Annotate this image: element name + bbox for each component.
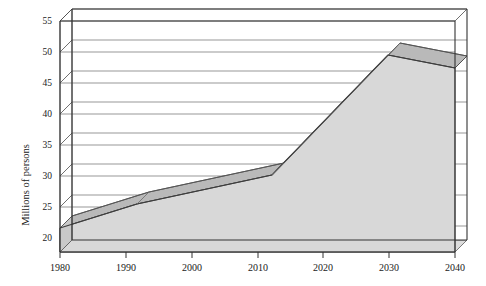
xtick-label: 1980: [50, 262, 70, 273]
ytick-label: 35: [43, 140, 53, 150]
ytick-label: 30: [43, 171, 53, 181]
yaxis-tick-labels: 55 50 45 40 35 30 25 20: [43, 16, 53, 243]
xtick-label: 2040: [445, 262, 465, 273]
xtick-label: 2030: [379, 262, 399, 273]
chart-canvas: 55 50 45 40 35 30 25 20 1980 1990 2000 2…: [0, 0, 486, 286]
yaxis-title: Millions of persons: [20, 144, 31, 226]
ytick-label: 20: [43, 233, 53, 243]
ytick-label: 55: [43, 16, 53, 26]
ytick-label: 50: [43, 47, 53, 57]
xtick-label: 2020: [313, 262, 333, 273]
xaxis-ticks: [60, 252, 455, 258]
xtick-label: 2000: [182, 262, 202, 273]
xaxis-tick-labels: 1980 1990 2000 2010 2020 2030 2040: [50, 262, 465, 273]
xtick-label: 2010: [248, 262, 268, 273]
chart-3d-area: 55 50 45 40 35 30 25 20 1980 1990 2000 2…: [0, 0, 486, 286]
ytick-label: 40: [43, 109, 53, 119]
ytick-label: 25: [43, 202, 53, 212]
ytick-label: 45: [43, 78, 53, 88]
xtick-label: 1990: [116, 262, 136, 273]
